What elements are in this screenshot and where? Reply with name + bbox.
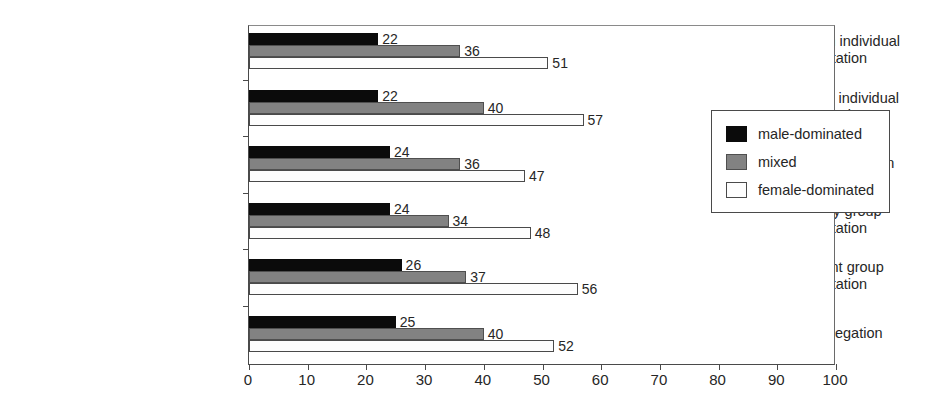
x-axis-tick bbox=[366, 364, 367, 370]
legend-label: male-dominated bbox=[758, 126, 862, 142]
bar-mixed-5 bbox=[249, 328, 484, 340]
bar-value-label: 57 bbox=[588, 113, 604, 127]
bar-male-dominated-5 bbox=[249, 316, 396, 328]
bar-male-dominated-3 bbox=[249, 203, 390, 215]
bar-value-label: 36 bbox=[464, 44, 480, 58]
bar-female-dominated-4 bbox=[249, 283, 578, 295]
y-axis-tick bbox=[243, 193, 249, 194]
x-axis-tick bbox=[719, 364, 720, 370]
x-axis-tick-label: 40 bbox=[474, 372, 491, 388]
bar-mixed-2 bbox=[249, 158, 460, 170]
bar-male-dominated-4 bbox=[249, 259, 402, 271]
legend-swatch-mixed bbox=[726, 154, 747, 170]
bar-mixed-4 bbox=[249, 271, 466, 283]
bar-value-label: 36 bbox=[464, 157, 480, 171]
bar-mixed-0 bbox=[249, 45, 460, 57]
x-axis-tick bbox=[308, 364, 309, 370]
legend-row-female-dominated: female-dominated bbox=[726, 176, 889, 204]
x-axis-tick bbox=[425, 364, 426, 370]
legend-label: mixed bbox=[758, 154, 797, 170]
bar-value-label: 24 bbox=[394, 145, 410, 159]
legend-label: female-dominated bbox=[758, 182, 874, 198]
bar-male-dominated-1 bbox=[249, 90, 378, 102]
bar-value-label: 25 bbox=[400, 315, 416, 329]
bar-mixed-1 bbox=[249, 102, 484, 114]
x-axis-tick-label: 70 bbox=[651, 372, 668, 388]
bar-male-dominated-2 bbox=[249, 146, 390, 158]
x-axis-tick bbox=[777, 364, 778, 370]
bar-value-label: 22 bbox=[382, 32, 398, 46]
x-axis-tick bbox=[543, 364, 544, 370]
x-axis-tick-label: 10 bbox=[298, 372, 315, 388]
chart-legend: male-dominatedmixedfemale-dominated bbox=[711, 110, 890, 213]
bar-female-dominated-2 bbox=[249, 170, 525, 182]
y-axis-tick bbox=[243, 249, 249, 250]
bar-mixed-3 bbox=[249, 215, 449, 227]
bar-value-label: 34 bbox=[453, 214, 469, 228]
bar-value-label: 48 bbox=[535, 226, 551, 240]
x-axis-tick bbox=[601, 364, 602, 370]
bar-chart: arm's length individual consultationface… bbox=[0, 0, 931, 418]
bar-value-label: 24 bbox=[394, 202, 410, 216]
y-axis-tick bbox=[243, 80, 249, 81]
x-axis-tick-label: 50 bbox=[533, 372, 550, 388]
x-axis-tick-label: 60 bbox=[592, 372, 609, 388]
x-axis-tick bbox=[836, 364, 837, 370]
legend-swatch-male-dominated bbox=[726, 126, 747, 142]
bar-female-dominated-1 bbox=[249, 114, 584, 126]
bar-value-label: 56 bbox=[582, 282, 598, 296]
x-axis-tick-label: 20 bbox=[357, 372, 374, 388]
x-axis-tick bbox=[484, 364, 485, 370]
bar-male-dominated-0 bbox=[249, 33, 378, 45]
bar-value-label: 26 bbox=[406, 258, 422, 272]
legend-row-male-dominated: male-dominated bbox=[726, 120, 889, 148]
bar-value-label: 51 bbox=[552, 56, 568, 70]
bar-female-dominated-3 bbox=[249, 227, 531, 239]
x-axis-tick-label: 0 bbox=[244, 372, 252, 388]
legend-row-mixed: mixed bbox=[726, 148, 889, 176]
x-axis-tick-label: 30 bbox=[416, 372, 433, 388]
x-axis-tick bbox=[249, 364, 250, 370]
legend-swatch-female-dominated bbox=[726, 182, 747, 198]
bar-value-label: 37 bbox=[470, 270, 486, 284]
bar-value-label: 40 bbox=[488, 101, 504, 115]
bar-female-dominated-5 bbox=[249, 340, 554, 352]
bar-value-label: 47 bbox=[529, 169, 545, 183]
y-axis-tick bbox=[243, 306, 249, 307]
x-axis-tick-label: 90 bbox=[768, 372, 785, 388]
y-axis-tick bbox=[243, 136, 249, 137]
x-axis-tick-label: 80 bbox=[709, 372, 726, 388]
x-axis-tick-label: 100 bbox=[822, 372, 847, 388]
x-axis-tick bbox=[660, 364, 661, 370]
bar-value-label: 22 bbox=[382, 89, 398, 103]
bar-value-label: 52 bbox=[558, 339, 574, 353]
bar-value-label: 40 bbox=[488, 327, 504, 341]
bar-female-dominated-0 bbox=[249, 57, 548, 69]
